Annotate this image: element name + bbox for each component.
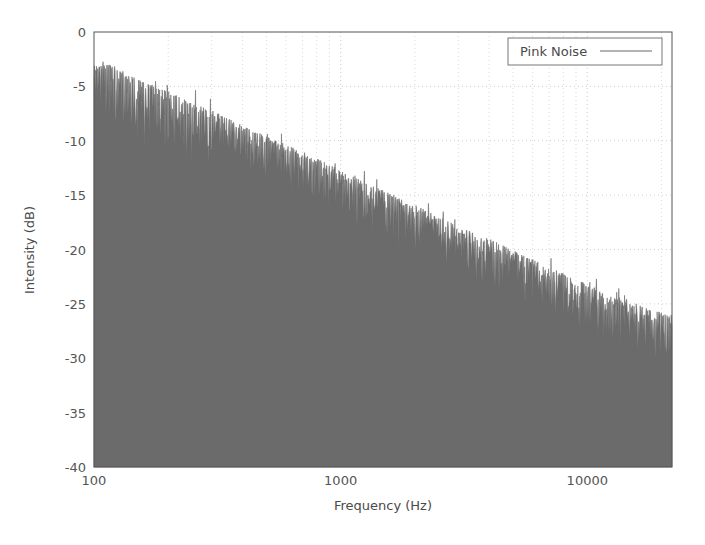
y-tick-label: -5 — [73, 79, 86, 94]
y-axis-title: Intensity (dB) — [22, 206, 37, 294]
legend-label-pink-noise: Pink Noise — [520, 44, 587, 59]
legend[interactable]: Pink Noise — [508, 38, 662, 65]
y-tick-label: -35 — [65, 406, 86, 421]
y-tick-label: -15 — [65, 188, 86, 203]
y-tick-label: -40 — [65, 460, 86, 475]
y-tick-label: -10 — [65, 134, 86, 149]
y-tick-label: -30 — [65, 351, 86, 366]
y-tick-label: -25 — [65, 297, 86, 312]
y-tick-label: 0 — [78, 25, 86, 40]
y-tick-label: -20 — [65, 243, 86, 258]
x-tick-label: 100 — [82, 473, 107, 488]
x-tick-label: 10000 — [567, 473, 608, 488]
x-tick-label: 1000 — [324, 473, 357, 488]
spectrum-chart: 100100010000 0-5-10-15-20-25-30-35-40 Fr… — [0, 0, 705, 545]
x-axis-title: Frequency (Hz) — [334, 498, 432, 513]
chart-canvas: 100100010000 0-5-10-15-20-25-30-35-40 Fr… — [0, 0, 705, 545]
